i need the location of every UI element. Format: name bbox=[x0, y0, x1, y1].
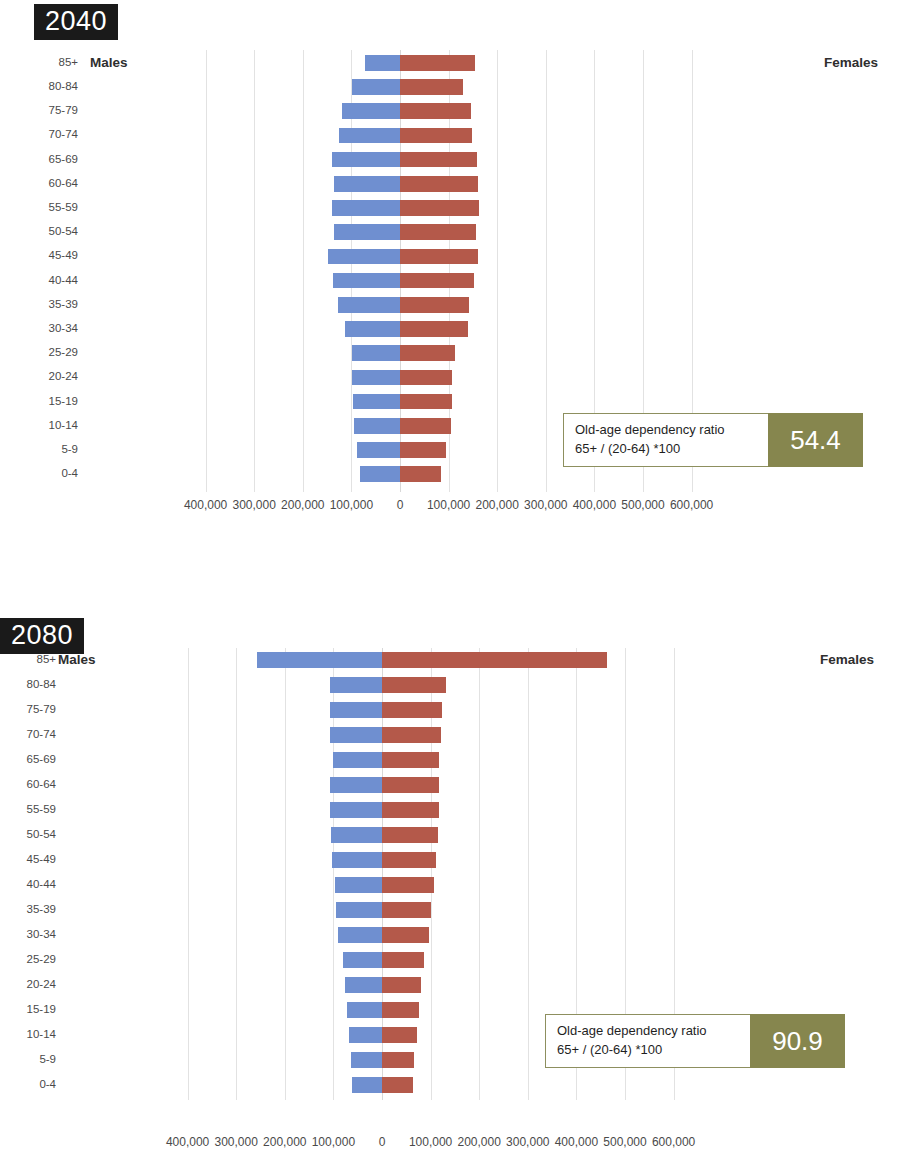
bar-females bbox=[400, 103, 471, 119]
bar-males bbox=[338, 927, 382, 943]
age-group-label: 25-29 bbox=[0, 954, 56, 966]
bar-females bbox=[382, 902, 431, 918]
bar-females bbox=[382, 877, 434, 893]
bar-females bbox=[400, 79, 463, 95]
bar-females bbox=[382, 1052, 414, 1068]
bar-females bbox=[382, 702, 442, 718]
x-axis-tick-label: 300,000 bbox=[506, 1135, 549, 1149]
pyramid-row: 65-69 bbox=[0, 152, 924, 168]
bar-males bbox=[352, 1077, 382, 1093]
age-group-label: 55-59 bbox=[8, 202, 78, 214]
bar-females bbox=[400, 273, 474, 289]
x-axis-tick-label: 400,000 bbox=[573, 498, 616, 512]
pyramid-row: 85+ bbox=[0, 55, 924, 71]
pyramid-row: 60-64 bbox=[0, 176, 924, 192]
ratio-line2-2080: 65+ / (20-64) *100 bbox=[557, 1041, 740, 1060]
bar-females bbox=[382, 852, 436, 868]
x-axis-tick-label: 100,000 bbox=[312, 1135, 355, 1149]
old-age-dependency-ratio-box-2080: Old-age dependency ratio 65+ / (20-64) *… bbox=[545, 1014, 845, 1068]
old-age-dependency-ratio-box-2040: Old-age dependency ratio 65+ / (20-64) *… bbox=[563, 413, 863, 467]
bar-males bbox=[332, 852, 382, 868]
age-group-label: 40-44 bbox=[8, 275, 78, 287]
ratio-value-2080: 90.9 bbox=[750, 1014, 845, 1068]
age-group-label: 70-74 bbox=[0, 729, 56, 741]
bar-females bbox=[382, 777, 439, 793]
age-group-label: 20-24 bbox=[8, 371, 78, 383]
x-axis-tick-label: 200,000 bbox=[281, 498, 324, 512]
pyramid-row: 35-39 bbox=[0, 297, 924, 313]
bar-females bbox=[382, 927, 429, 943]
age-group-label: 25-29 bbox=[8, 347, 78, 359]
x-axis-tick-label: 200,000 bbox=[475, 498, 518, 512]
ratio-text-2080: Old-age dependency ratio 65+ / (20-64) *… bbox=[545, 1014, 750, 1068]
pyramid-row: 70-74 bbox=[0, 727, 924, 743]
age-group-label: 30-34 bbox=[8, 323, 78, 335]
bar-females bbox=[400, 466, 441, 482]
bar-females bbox=[400, 249, 478, 265]
bar-males bbox=[352, 370, 400, 386]
ratio-value-2040: 54.4 bbox=[768, 413, 863, 467]
age-group-label: 60-64 bbox=[8, 178, 78, 190]
bar-males bbox=[333, 752, 382, 768]
population-pyramid-2080: 2080 Males Females 85+80-8475-7970-7465-… bbox=[0, 600, 924, 1169]
age-group-label: 5-9 bbox=[8, 444, 78, 456]
pyramid-row: 55-59 bbox=[0, 802, 924, 818]
pyramid-row: 40-44 bbox=[0, 273, 924, 289]
bar-females bbox=[382, 752, 439, 768]
bar-males bbox=[352, 79, 400, 95]
age-group-label: 85+ bbox=[0, 654, 56, 666]
bar-females bbox=[400, 55, 475, 71]
age-group-label: 45-49 bbox=[8, 250, 78, 262]
pyramid-row: 0-4 bbox=[0, 1077, 924, 1093]
pyramid-row: 20-24 bbox=[0, 977, 924, 993]
bar-males bbox=[330, 727, 382, 743]
pyramid-row: 80-84 bbox=[0, 677, 924, 693]
bar-males bbox=[352, 345, 400, 361]
x-axis-tick-label: 0 bbox=[397, 498, 404, 512]
age-group-label: 20-24 bbox=[0, 979, 56, 991]
bar-males bbox=[342, 103, 400, 119]
x-axis-tick-label: 400,000 bbox=[555, 1135, 598, 1149]
age-group-label: 10-14 bbox=[8, 420, 78, 432]
pyramid-row: 80-84 bbox=[0, 79, 924, 95]
bar-males bbox=[357, 442, 400, 458]
age-group-label: 50-54 bbox=[0, 829, 56, 841]
bar-males bbox=[339, 128, 400, 144]
pyramid-row: 25-29 bbox=[0, 952, 924, 968]
bar-females bbox=[382, 1077, 413, 1093]
pyramid-row: 40-44 bbox=[0, 877, 924, 893]
bar-females bbox=[400, 176, 478, 192]
bar-males bbox=[338, 297, 400, 313]
bar-males bbox=[335, 877, 382, 893]
age-group-label: 0-4 bbox=[0, 1079, 56, 1091]
age-group-label: 15-19 bbox=[0, 1004, 56, 1016]
age-group-label: 65-69 bbox=[8, 154, 78, 166]
x-axis-tick-label: 200,000 bbox=[457, 1135, 500, 1149]
bar-males bbox=[328, 249, 400, 265]
pyramid-row: 75-79 bbox=[0, 702, 924, 718]
bar-females bbox=[382, 677, 446, 693]
x-axis-tick-label: 300,000 bbox=[524, 498, 567, 512]
bar-females bbox=[400, 442, 446, 458]
ratio-line1-2080: Old-age dependency ratio bbox=[557, 1022, 740, 1041]
bar-males bbox=[334, 224, 400, 240]
pyramid-row: 45-49 bbox=[0, 249, 924, 265]
bar-females bbox=[400, 297, 469, 313]
bar-females bbox=[400, 418, 451, 434]
x-axis-tick-label: 0 bbox=[379, 1135, 386, 1149]
bar-females bbox=[400, 321, 468, 337]
population-pyramid-2040: 2040 Males Females 85+80-8475-7970-7465-… bbox=[0, 0, 924, 560]
pyramid-row: 15-19 bbox=[0, 394, 924, 410]
x-axis-tick-label: 400,000 bbox=[166, 1135, 209, 1149]
bar-females bbox=[382, 802, 439, 818]
x-axis-2080: 400,000300,000200,000100,0000100,000200,… bbox=[0, 1135, 924, 1157]
age-group-label: 75-79 bbox=[8, 105, 78, 117]
bar-males bbox=[343, 952, 382, 968]
x-axis-tick-label: 500,000 bbox=[621, 498, 664, 512]
x-axis-tick-label: 600,000 bbox=[670, 498, 713, 512]
pyramid-row: 70-74 bbox=[0, 128, 924, 144]
ratio-text-2040: Old-age dependency ratio 65+ / (20-64) *… bbox=[563, 413, 768, 467]
pyramid-row: 50-54 bbox=[0, 224, 924, 240]
age-group-label: 70-74 bbox=[8, 129, 78, 141]
age-group-label: 15-19 bbox=[8, 396, 78, 408]
